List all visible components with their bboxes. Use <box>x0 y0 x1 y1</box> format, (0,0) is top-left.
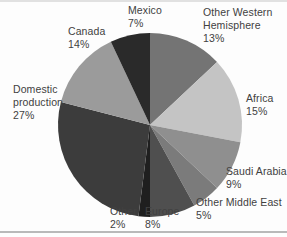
pie-chart-figure: Other WesternHemisphere13%Africa15%Saudi… <box>0 0 287 237</box>
pie-svg <box>0 0 287 237</box>
page-rule-bottom <box>0 231 287 233</box>
